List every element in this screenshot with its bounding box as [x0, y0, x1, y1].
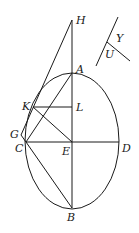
label-Y: Y: [116, 32, 125, 45]
label-D: D: [121, 142, 131, 155]
geometry-diagram: H A K L G C E D B Y U: [0, 0, 139, 233]
label-B: B: [66, 211, 75, 224]
segment-HG-tangent: [21, 20, 72, 135]
label-U: U: [105, 48, 115, 61]
label-H: H: [75, 14, 86, 27]
label-K: K: [21, 100, 31, 113]
label-L: L: [75, 101, 83, 114]
label-E: E: [61, 145, 70, 158]
segment-KE: [33, 107, 72, 142]
label-C: C: [15, 142, 24, 155]
label-A: A: [75, 63, 84, 76]
label-G: G: [10, 128, 19, 141]
